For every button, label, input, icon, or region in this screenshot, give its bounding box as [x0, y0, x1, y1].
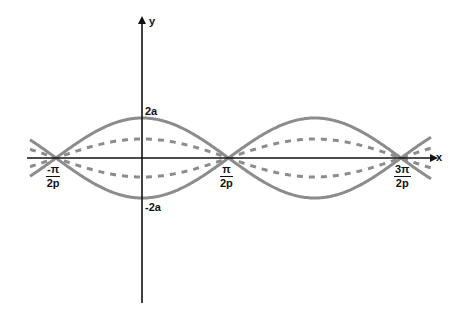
x-tick-3pi-over-2p: 3π 2p — [394, 164, 411, 189]
x-tick-denominator: 2p — [46, 177, 60, 189]
x-tick-pi-over-2p: π 2p — [220, 164, 233, 189]
x-axis-label: x — [436, 152, 442, 163]
x-tick-neg-pi-over-2p: -π 2p — [46, 164, 60, 189]
x-tick-denominator: 2p — [394, 177, 411, 189]
x-tick-numerator: -π — [46, 164, 60, 177]
standing-wave-diagram: x y 2a -2a -π 2p π 2p 3π 2p — [0, 0, 459, 325]
y-tick-neg-2a: -2a — [145, 202, 161, 213]
x-tick-denominator: 2p — [220, 177, 233, 189]
y-tick-2a: 2a — [145, 106, 157, 117]
y-axis-arrow-icon — [138, 16, 146, 24]
x-tick-numerator: π — [220, 164, 233, 177]
y-axis-label: y — [149, 16, 155, 27]
x-tick-numerator: 3π — [394, 164, 411, 177]
